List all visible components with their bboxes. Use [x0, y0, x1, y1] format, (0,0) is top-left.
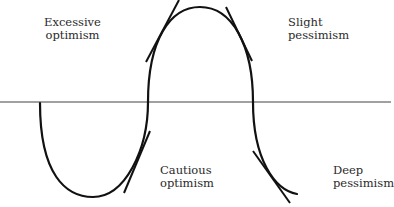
label-line2: optimism — [44, 29, 101, 42]
tangent-top-right — [226, 7, 252, 61]
label-slight-pessimism: Slight pessimism — [288, 16, 349, 42]
tangent-bottom-right — [253, 151, 290, 203]
label-line2: optimism — [160, 177, 214, 190]
label-deep-pessimism: Deep pessimism — [333, 164, 394, 190]
label-line2: pessimism — [288, 29, 349, 42]
label-excessive-optimism: Excessive optimism — [44, 16, 101, 42]
label-line2: pessimism — [333, 177, 394, 190]
tangent-top-left — [146, 0, 179, 62]
tangent-bottom-left — [124, 131, 150, 193]
label-cautious-optimism: Cautious optimism — [160, 164, 214, 190]
